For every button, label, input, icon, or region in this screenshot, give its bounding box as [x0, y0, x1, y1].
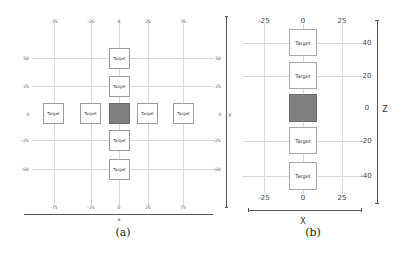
x-tick-top: -25	[258, 17, 269, 25]
target-label: Target	[295, 40, 310, 46]
x-axis-label: X	[300, 217, 305, 226]
target-box: Target	[289, 62, 317, 89]
x-tick-bottom: 25	[338, 194, 347, 202]
x-axis-line	[24, 214, 213, 215]
target-box: Target	[109, 130, 130, 151]
target-box: Target	[80, 103, 101, 124]
x-tick-bottom: -75	[50, 205, 57, 210]
y-tick-left: 0	[27, 112, 30, 117]
x-axis-label: x	[118, 216, 121, 222]
z-tick: 20	[363, 72, 372, 80]
panel-a-caption: (a)	[115, 226, 130, 239]
target-label: Target	[113, 138, 125, 143]
z-tick: -40	[360, 172, 371, 180]
z-axis-cap-top	[375, 20, 379, 21]
target-label: Target	[84, 111, 96, 116]
target-box: Target	[289, 127, 317, 154]
target-label: Target	[295, 73, 310, 79]
z-tick: 0	[365, 104, 369, 112]
x-tick-top: -25	[87, 19, 94, 24]
target-box: Target	[289, 162, 317, 190]
z-tick: -20	[360, 137, 371, 145]
x-tick-top: 0	[301, 17, 305, 25]
y-axis-cap-bottom	[225, 207, 228, 208]
y-tick-right: 25	[215, 84, 221, 89]
target-box: Target	[43, 103, 64, 124]
y-axis-cap-top	[225, 16, 228, 17]
y-tick-left: 50	[23, 56, 29, 61]
x-tick-bottom: 0	[118, 205, 121, 210]
x-tick-top: 75	[180, 19, 186, 24]
target-box: Target	[109, 76, 130, 97]
y-tick-right: 0	[219, 112, 222, 117]
x-axis-line	[248, 210, 362, 211]
target-label: Target	[295, 138, 310, 144]
x-tick-bottom: 25	[145, 205, 151, 210]
z-axis-line	[377, 20, 378, 204]
x-tick-top: -75	[50, 19, 57, 24]
target-box: Target	[137, 103, 158, 124]
target-label: Target	[295, 173, 310, 179]
target-label: Target	[141, 111, 153, 116]
y-tick-right: -25	[213, 138, 220, 143]
y-tick-left: 25	[23, 84, 29, 89]
x-tick-top: 0	[118, 19, 121, 24]
z-tick: 40	[363, 39, 372, 47]
x-axis-cap-left	[248, 208, 249, 212]
x-tick-top: 25	[338, 17, 347, 25]
y-tick-right: 50	[215, 56, 221, 61]
target-label: Target	[113, 167, 125, 172]
grid-line-x-25	[342, 24, 343, 194]
target-box: Target	[109, 159, 130, 180]
z-axis-label: Z	[382, 105, 387, 114]
x-tick-bottom: -25	[87, 205, 94, 210]
x-tick-bottom: 75	[180, 205, 186, 210]
y-tick-left: -50	[21, 167, 28, 172]
target-label: Target	[177, 111, 189, 116]
target-label: Target	[113, 56, 125, 61]
agent-box	[109, 103, 130, 124]
target-label: Target	[113, 84, 125, 89]
x-tick-bottom: -25	[258, 194, 269, 202]
grid-line-x-neg25	[264, 24, 265, 194]
y-tick-left: -25	[21, 138, 28, 143]
target-box: Target	[109, 48, 130, 69]
y-axis-line	[226, 16, 227, 208]
y-tick-right: -50	[213, 167, 220, 172]
agent-box	[289, 94, 317, 122]
x-tick-top: 25	[145, 19, 151, 24]
x-axis-cap-right	[361, 208, 362, 212]
y-axis-label: y	[229, 111, 232, 117]
target-label: Target	[47, 111, 59, 116]
z-axis-cap-bottom	[375, 203, 379, 204]
target-box: Target	[173, 103, 194, 124]
x-tick-bottom: 0	[301, 194, 305, 202]
target-box: Target	[289, 29, 317, 56]
panel-b-caption: (b)	[305, 226, 321, 239]
